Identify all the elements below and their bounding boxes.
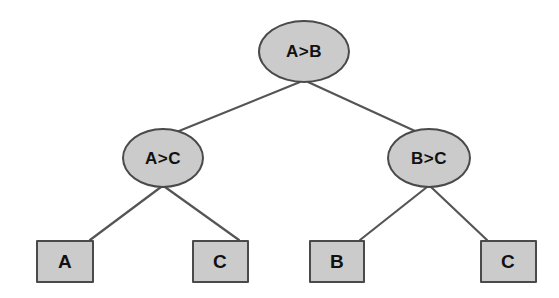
node-label: A>C <box>145 150 181 167</box>
node-label: B <box>330 252 344 271</box>
leaf-node-c-left[interactable]: C <box>192 240 249 283</box>
edge-root-to-right <box>308 82 415 131</box>
edge-right-to-leaf-c2 <box>431 187 487 240</box>
decision-node-right[interactable]: B>C <box>387 128 471 188</box>
edge-root-to-left <box>179 82 300 131</box>
node-label: A <box>58 252 72 271</box>
leaf-node-c-right[interactable]: C <box>480 240 537 283</box>
decision-tree-diagram: A>B A>C B>C A C B C <box>0 0 559 298</box>
node-label: C <box>213 252 227 271</box>
node-label: A>B <box>286 43 322 60</box>
edge-left-to-leaf-c1 <box>165 187 239 240</box>
edge-left-to-leaf-a <box>90 187 161 240</box>
leaf-node-a[interactable]: A <box>36 240 94 283</box>
decision-node-root[interactable]: A>B <box>258 20 350 83</box>
decision-node-left[interactable]: A>C <box>122 128 204 188</box>
edge-right-to-leaf-b <box>360 187 427 240</box>
leaf-node-b[interactable]: B <box>309 240 365 283</box>
node-label: C <box>501 252 515 271</box>
node-label: B>C <box>411 150 447 167</box>
